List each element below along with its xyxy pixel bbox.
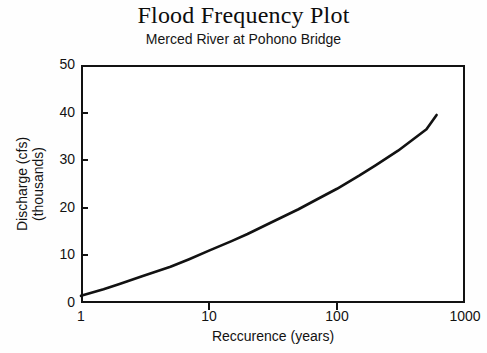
chart-subtitle: Merced River at Pohono Bridge [0, 31, 487, 47]
y-tick-label-text: 40 [44, 104, 75, 120]
x-tick-label-text: 10 [179, 308, 239, 324]
y-tick-mark [81, 207, 88, 209]
x-tick-label: 100 [307, 308, 367, 326]
y-tick-label-text: 30 [44, 151, 75, 167]
page-title: Flood Frequency Plot [0, 2, 487, 29]
x-tick-label: 1 [51, 308, 111, 326]
y-tick-label-text: 20 [44, 199, 75, 215]
x-tick-label-text: 1 [51, 308, 111, 324]
y-tick-mark [81, 254, 88, 256]
y-tick-label-text: 10 [44, 246, 75, 262]
x-tick-label: 1000 [435, 308, 487, 326]
data-curve [81, 65, 465, 303]
y-tick-mark [81, 159, 88, 161]
x-axis-label: Reccurence (years) [81, 328, 465, 344]
y-tick-mark [81, 112, 88, 114]
y-axis-label: Discharge (cfs) (thousands) [8, 65, 52, 303]
y-tick-label: 50 [44, 56, 75, 72]
y-tick-label: 20 [44, 199, 75, 215]
y-tick-label-text: 50 [44, 56, 75, 72]
x-tick-label: 10 [179, 308, 239, 326]
flood-frequency-chart: Flood Frequency Plot Merced River at Poh… [0, 0, 487, 353]
y-axis-label-line-1: Discharge (cfs) [14, 137, 30, 231]
y-tick-label: 10 [44, 246, 75, 262]
y-tick-label: 40 [44, 104, 75, 120]
x-tick-label-text: 1000 [435, 308, 487, 324]
x-tick-label-text: 100 [307, 308, 367, 324]
y-tick-label: 30 [44, 151, 75, 167]
